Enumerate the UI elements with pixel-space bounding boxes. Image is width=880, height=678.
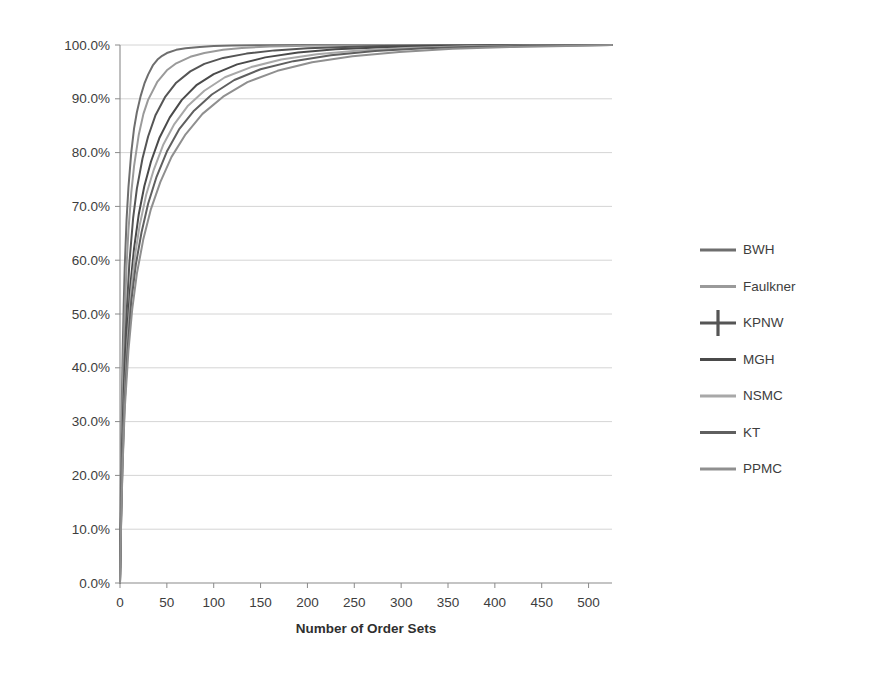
- y-axis-tick-label: 80.0%: [72, 145, 110, 160]
- cumulative-order-sets-chart: 0.0%10.0%20.0%30.0%40.0%50.0%60.0%70.0%8…: [0, 0, 880, 678]
- x-axis-tick-label: 300: [390, 595, 413, 610]
- x-axis-tick-label: 200: [296, 595, 319, 610]
- x-axis-tick-label: 150: [249, 595, 272, 610]
- x-axis-tick-label: 100: [202, 595, 225, 610]
- legend-label-mgh: MGH: [743, 352, 775, 367]
- y-axis-tick-label: 40.0%: [72, 360, 110, 375]
- x-axis-tick-label: 450: [530, 595, 553, 610]
- legend-label-kt: KT: [743, 425, 760, 440]
- x-axis-tick-label: 500: [577, 595, 600, 610]
- y-axis-tick-label: 0.0%: [79, 576, 110, 591]
- x-axis-tick-label: 350: [437, 595, 460, 610]
- y-axis-tick-label: 60.0%: [72, 253, 110, 268]
- y-axis-tick-label: 30.0%: [72, 414, 110, 429]
- y-axis-tick-label: 90.0%: [72, 91, 110, 106]
- x-axis-tick-label: 250: [343, 595, 366, 610]
- legend-label-bwh: BWH: [743, 242, 775, 257]
- chart-background: [0, 0, 880, 678]
- x-axis-tick-label: 0: [116, 595, 124, 610]
- x-axis-title: Number of Order Sets: [296, 621, 436, 636]
- y-axis-tick-label: 70.0%: [72, 199, 110, 214]
- legend-label-faulkner: Faulkner: [743, 279, 796, 294]
- y-axis-tick-label: 10.0%: [72, 522, 110, 537]
- y-axis-tick-label: 100.0%: [64, 38, 110, 53]
- x-axis-tick-label: 50: [159, 595, 174, 610]
- legend-label-kpnw: KPNW: [743, 315, 784, 330]
- y-axis-tick-label: 50.0%: [72, 307, 110, 322]
- legend-label-ppmc: PPMC: [743, 461, 782, 476]
- x-axis-tick-label: 400: [484, 595, 507, 610]
- y-axis-tick-label: 20.0%: [72, 468, 110, 483]
- legend-label-nsmc: NSMC: [743, 388, 783, 403]
- x-axis-title-label: Number of Order Sets: [296, 621, 436, 636]
- chart-container: 0.0%10.0%20.0%30.0%40.0%50.0%60.0%70.0%8…: [0, 0, 880, 678]
